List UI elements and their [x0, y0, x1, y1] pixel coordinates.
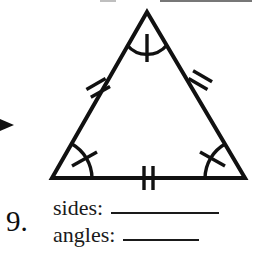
angle-mark-bottom-right: [200, 144, 225, 178]
answer-label-sides: sides:: [53, 196, 103, 219]
answer-blank-sides[interactable]: [111, 212, 219, 214]
answer-row-angles: angles:: [53, 223, 199, 246]
answer-block: 9. sides: angles:: [0, 193, 261, 258]
answer-row-sides: sides:: [53, 196, 219, 219]
answer-blank-angles[interactable]: [123, 239, 199, 241]
angle-mark-bottom-left: [72, 144, 97, 178]
answer-label-angles: angles:: [53, 223, 115, 246]
equilateral-triangle-figure: [0, 0, 261, 200]
problem-number: 9.: [6, 207, 28, 236]
worksheet-page: 9. sides: angles:: [0, 0, 261, 258]
